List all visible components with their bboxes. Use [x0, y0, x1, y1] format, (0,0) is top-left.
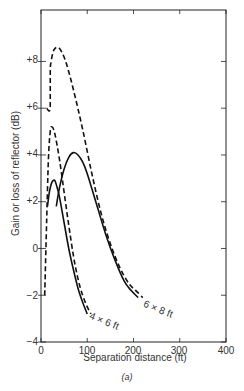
xtick-label: 0	[26, 345, 56, 356]
xtick-label: 400	[211, 345, 241, 356]
curve-6-x-8-ft-solid-	[56, 153, 138, 298]
data-curves	[45, 47, 143, 314]
curve-4-x-6-ft-solid-	[47, 180, 87, 314]
figure-caption: (a)	[112, 372, 142, 382]
ytick-label: +8	[14, 54, 38, 65]
curve-4-x-6-ft-dashed-	[45, 127, 91, 314]
ytick-label: −2	[14, 290, 38, 301]
y-axis-label: Gain or loss of reflector (dB)	[10, 99, 21, 249]
x-axis-label: Separation distance (ft)	[60, 352, 210, 363]
